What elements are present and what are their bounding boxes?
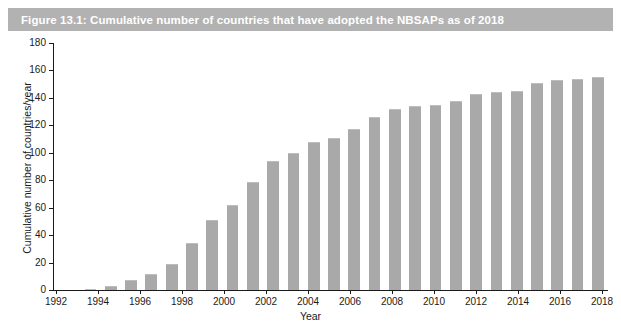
- bar-slot: [446, 43, 466, 290]
- bar-slot: [283, 43, 303, 290]
- x-tick-mark: [434, 290, 435, 294]
- bar: [288, 153, 300, 290]
- bar-slot: [141, 43, 161, 290]
- x-tick-label: 2006: [339, 296, 361, 307]
- plot-area: [54, 43, 608, 290]
- y-tick-label: 160: [20, 65, 46, 75]
- bar: [186, 243, 198, 290]
- bar: [308, 142, 320, 290]
- figure-title-text: Figure 13.1: Cumulative number of countr…: [8, 14, 504, 26]
- bar: [206, 220, 218, 290]
- bar-slot: [385, 43, 405, 290]
- bar: [145, 274, 157, 290]
- y-tick-label: 60: [20, 203, 46, 213]
- bar: [409, 106, 421, 290]
- bar-slot: [202, 43, 222, 290]
- bar-slot: [507, 43, 527, 290]
- x-tick-label: 1996: [129, 296, 151, 307]
- y-axis-tick-labels: 020406080100120140160180: [20, 31, 46, 327]
- x-tick-mark: [308, 290, 309, 294]
- figure-screenshot: Figure 13.1: Cumulative number of countr…: [0, 0, 621, 327]
- x-tick-mark: [560, 290, 561, 294]
- x-tick-label: 1994: [87, 296, 109, 307]
- bar-slot: [527, 43, 547, 290]
- bar-slot: [263, 43, 283, 290]
- bar-slot: [364, 43, 384, 290]
- x-tick-label: 2012: [465, 296, 487, 307]
- x-tick-mark: [98, 290, 99, 294]
- x-tick-label: 2008: [381, 296, 403, 307]
- bar: [592, 77, 604, 290]
- bar-slot: [243, 43, 263, 290]
- bar: [511, 91, 523, 290]
- y-tick-label: 140: [20, 93, 46, 103]
- bar: [247, 182, 259, 290]
- y-tick-label: 100: [20, 148, 46, 158]
- bar: [267, 161, 279, 290]
- y-tick-label: 120: [20, 120, 46, 130]
- bar: [369, 117, 381, 290]
- bar: [551, 80, 563, 290]
- x-tick-mark: [518, 290, 519, 294]
- figure-title-bar: Figure 13.1: Cumulative number of countr…: [8, 8, 613, 31]
- bar: [389, 109, 401, 290]
- y-tick-label: 20: [20, 258, 46, 268]
- x-tick-mark: [350, 290, 351, 294]
- x-axis-ticks: 1992199419961998200020022004200620082010…: [54, 290, 608, 298]
- bar: [348, 129, 360, 290]
- x-tick-mark: [182, 290, 183, 294]
- bar-slot: [101, 43, 121, 290]
- bar: [328, 138, 340, 290]
- x-axis-title: Year: [0, 310, 621, 322]
- x-tick-label: 2016: [549, 296, 571, 307]
- bar-slot: [222, 43, 242, 290]
- x-tick-mark: [392, 290, 393, 294]
- bar-slot: [324, 43, 344, 290]
- bar: [450, 101, 462, 290]
- x-tick-mark: [602, 290, 603, 294]
- y-tick-label: 80: [20, 175, 46, 185]
- x-tick-label: 1998: [171, 296, 193, 307]
- x-tick-label: 2004: [297, 296, 319, 307]
- bar: [227, 205, 239, 290]
- x-tick-label: 2014: [507, 296, 529, 307]
- bar-slot: [405, 43, 425, 290]
- x-tick-label: 2018: [591, 296, 613, 307]
- bar: [572, 79, 584, 290]
- y-tick-label: 40: [20, 230, 46, 240]
- bar: [125, 280, 137, 290]
- bar-slot: [588, 43, 608, 290]
- bar: [491, 92, 503, 290]
- bar-slot: [60, 43, 80, 290]
- bar-slot: [486, 43, 506, 290]
- bar-slot: [425, 43, 445, 290]
- x-tick-mark: [224, 290, 225, 294]
- x-tick-label: 1992: [45, 296, 67, 307]
- bar-series: [54, 43, 608, 290]
- y-tick-label: 180: [20, 38, 46, 48]
- x-tick-label: 2010: [423, 296, 445, 307]
- x-tick-mark: [266, 290, 267, 294]
- y-tick-label: 0: [20, 285, 46, 295]
- bar: [166, 264, 178, 290]
- x-tick-mark: [140, 290, 141, 294]
- bar: [430, 105, 442, 290]
- bar-slot: [344, 43, 364, 290]
- bar-slot: [304, 43, 324, 290]
- bar-slot: [161, 43, 181, 290]
- bar-slot: [567, 43, 587, 290]
- chart-figure: Cumulative number of countries/year 0204…: [0, 31, 621, 327]
- bar: [470, 94, 482, 290]
- bar-slot: [80, 43, 100, 290]
- bar-slot: [466, 43, 486, 290]
- bar-slot: [121, 43, 141, 290]
- x-tick-mark: [476, 290, 477, 294]
- x-tick-label: 2000: [213, 296, 235, 307]
- x-tick-label: 2002: [255, 296, 277, 307]
- bar-slot: [182, 43, 202, 290]
- bar: [531, 83, 543, 290]
- x-tick-mark: [56, 290, 57, 294]
- bar-slot: [547, 43, 567, 290]
